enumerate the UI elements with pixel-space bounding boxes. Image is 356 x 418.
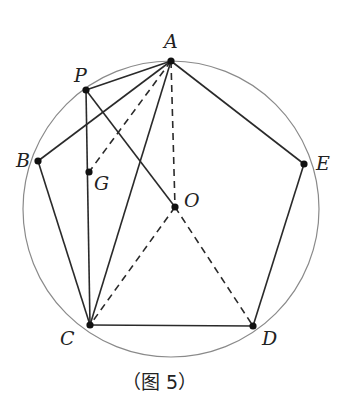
segment-AG: [89, 61, 171, 172]
label-P: P: [73, 64, 88, 86]
segment-BC: [38, 161, 90, 325]
label-A: A: [162, 30, 178, 52]
label-B: B: [15, 149, 30, 171]
point-P: [82, 86, 89, 93]
point-G: [85, 168, 92, 175]
point-D: [249, 322, 256, 329]
pentagon-circle-diagram: APBGOECD （图 5）: [0, 0, 356, 418]
segment-AO: [171, 61, 175, 207]
solid-segments: [38, 61, 304, 326]
vertex-labels: APBGOECD: [15, 30, 330, 349]
label-D: D: [261, 327, 277, 349]
label-G: G: [94, 172, 109, 194]
segment-AP: [86, 61, 171, 90]
segment-OC: [90, 207, 175, 325]
dashed-segments: [89, 61, 253, 326]
point-E: [300, 160, 307, 167]
circumscribed-circle: [23, 61, 319, 357]
label-C: C: [60, 327, 75, 349]
segment-CD: [90, 325, 253, 326]
point-B: [34, 157, 41, 164]
vertex-points: [34, 57, 307, 329]
segment-AB: [38, 61, 171, 161]
label-O: O: [184, 189, 200, 211]
figure-caption: （图 5）: [122, 371, 197, 393]
segment-OD: [175, 207, 253, 326]
segment-DE: [253, 164, 304, 326]
segment-PC: [86, 90, 90, 325]
point-O: [171, 203, 178, 210]
point-C: [86, 321, 93, 328]
point-A: [167, 57, 174, 64]
label-E: E: [315, 152, 330, 174]
